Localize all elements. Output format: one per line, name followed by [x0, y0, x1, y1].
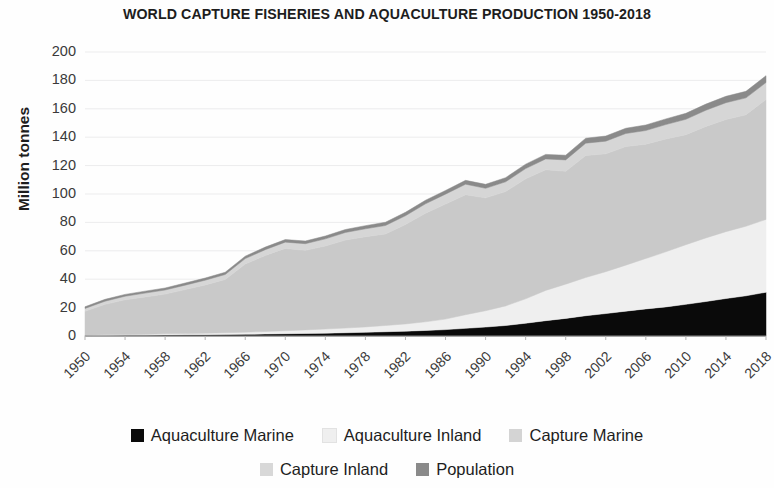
- legend-row-2: Capture InlandPopulation: [0, 452, 774, 486]
- legend-row-1: Aquaculture MarineAquaculture InlandCapt…: [0, 418, 774, 452]
- legend-swatch-icon: [322, 428, 337, 443]
- x-tick-1958: 1958: [140, 348, 173, 381]
- legend-item-aquaculture-marine[interactable]: Aquaculture Marine: [131, 427, 294, 444]
- legend-swatch-icon: [509, 429, 522, 442]
- x-tick-1966: 1966: [220, 348, 253, 381]
- legend-label: Capture Inland: [280, 461, 388, 478]
- x-tick-1990: 1990: [461, 348, 494, 381]
- x-tick-1998: 1998: [541, 348, 574, 381]
- x-tick-2018: 2018: [741, 348, 774, 381]
- legend-item-population[interactable]: Population: [416, 461, 514, 478]
- x-tick-1970: 1970: [260, 348, 293, 381]
- x-tick-1982: 1982: [381, 348, 414, 381]
- legend-item-capture-inland[interactable]: Capture Inland: [260, 461, 388, 478]
- x-tick-2010: 2010: [661, 348, 694, 381]
- legend-item-capture-marine[interactable]: Capture Marine: [509, 427, 643, 444]
- x-tick-1978: 1978: [341, 348, 374, 381]
- legend-swatch-icon: [260, 463, 273, 476]
- chart-legend: Aquaculture MarineAquaculture InlandCapt…: [0, 418, 774, 486]
- legend-label: Capture Marine: [529, 427, 643, 444]
- x-axis-tick-labels: 1950195419581962196619701974197819821986…: [0, 340, 774, 420]
- x-tick-1986: 1986: [421, 348, 454, 381]
- legend-item-aquaculture-inland[interactable]: Aquaculture Inland: [322, 427, 482, 444]
- x-tick-1954: 1954: [100, 348, 133, 381]
- x-tick-1950: 1950: [60, 348, 93, 381]
- x-tick-1974: 1974: [300, 348, 333, 381]
- legend-swatch-icon: [131, 429, 144, 442]
- x-tick-1994: 1994: [501, 348, 534, 381]
- legend-label: Aquaculture Marine: [151, 427, 294, 444]
- legend-label: Aquaculture Inland: [344, 427, 482, 444]
- x-tick-2006: 2006: [621, 348, 654, 381]
- legend-swatch-icon: [416, 463, 429, 476]
- x-tick-2002: 2002: [581, 348, 614, 381]
- legend-label: Population: [436, 461, 514, 478]
- x-tick-2014: 2014: [701, 348, 734, 381]
- chart-container: WORLD CAPTURE FISHERIES AND AQUACULTURE …: [0, 0, 774, 488]
- x-tick-1962: 1962: [180, 348, 213, 381]
